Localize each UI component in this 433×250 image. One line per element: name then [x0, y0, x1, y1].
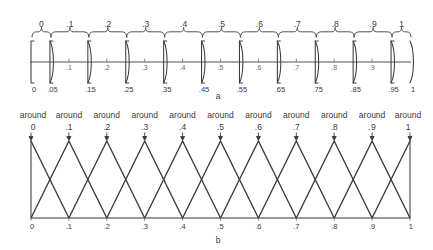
panel-a-caption: a [216, 91, 221, 101]
boundary-label-2: .15 [85, 85, 95, 94]
panel-a-axis-label-4: .5 [218, 64, 224, 71]
panel-b: around0around.1around.2around.3around.4a… [20, 110, 422, 231]
set-label-2: .2 [104, 19, 111, 29]
set-brace-3 [127, 27, 165, 37]
boundary-label-8: .75 [313, 85, 323, 94]
boundary-label-10: .95 [388, 85, 398, 94]
boundary-label-9: .85 [350, 85, 360, 94]
membership-triangle-4 [145, 141, 221, 218]
boundary-label-4: .35 [161, 85, 171, 94]
set-brace-8 [316, 27, 354, 37]
around-label-3: around [131, 110, 158, 120]
peak-arrow-head-2 [105, 137, 109, 141]
set-label-10: 1 [399, 19, 404, 29]
boundary-label-3: .25 [123, 85, 133, 94]
around-value-1: .1 [65, 122, 72, 132]
set-brace-9 [354, 27, 392, 37]
around-label-4: around [169, 110, 196, 120]
panel-a-axis-label-1: .2 [104, 64, 110, 71]
membership-triangle-9 [334, 141, 410, 218]
panel-b-axis-label-2: .2 [104, 222, 110, 231]
set-brace-10 [392, 27, 411, 37]
around-value-4: .4 [179, 122, 186, 132]
set-label-9: .9 [370, 19, 377, 29]
set-brace-6 [240, 27, 278, 37]
membership-triangle-6 [221, 141, 297, 218]
panel-b-axis-label-7: .7 [293, 222, 299, 231]
around-label-10: around [395, 110, 422, 120]
panel-a: 0.1.2.3.4.5.6.7.8.910.05.15.25.35.45.55.… [30, 19, 415, 94]
around-label-1: around [56, 110, 83, 120]
around-label-6: around [245, 110, 272, 120]
around-label-8: around [321, 110, 348, 120]
panel-b-axis-label-1: .1 [66, 222, 72, 231]
peak-arrow-head-9 [370, 137, 374, 141]
panel-b-axis-label-4: .4 [179, 222, 185, 231]
set-label-1: .1 [66, 19, 73, 29]
peak-arrow-head-1 [67, 137, 71, 141]
figure-svg: 0.1.2.3.4.5.6.7.8.910.05.15.25.35.45.55.… [0, 0, 433, 250]
panel-a-axis-label-5: .6 [255, 64, 261, 71]
peak-arrow-head-10 [408, 137, 412, 141]
peak-arrow-head-0 [29, 137, 33, 141]
boundary-label-1: .05 [47, 85, 57, 94]
around-value-6: .6 [255, 122, 262, 132]
membership-triangle-7 [258, 141, 334, 218]
around-value-8: .8 [331, 122, 338, 132]
boundary-label-5: .45 [199, 85, 209, 94]
around-value-0: 0 [31, 122, 36, 132]
boundary-label-11: 1 [411, 85, 415, 94]
membership-triangle-5 [183, 141, 259, 218]
panel-b-axis-label-3: .3 [142, 222, 148, 231]
around-label-7: around [283, 110, 310, 120]
around-label-5: around [207, 110, 234, 120]
set-brace-1 [51, 27, 89, 37]
set-brace-4 [165, 27, 203, 37]
panel-b-axis-label-6: .6 [255, 222, 261, 231]
around-value-2: .2 [103, 122, 110, 132]
peak-arrow-head-7 [294, 137, 298, 141]
peak-arrow-head-8 [332, 137, 336, 141]
panel-a-axis-label-0: .1 [66, 64, 72, 71]
boundary-label-7: .65 [275, 85, 285, 94]
set-label-5: .5 [218, 19, 225, 29]
membership-triangle-3 [107, 141, 183, 218]
around-value-7: .7 [293, 122, 300, 132]
panel-b-axis-label-8: .8 [331, 222, 337, 231]
set-label-6: .6 [256, 19, 263, 29]
set-brace-5 [203, 27, 241, 37]
panel-a-axis-label-2: .3 [142, 64, 148, 71]
set-label-7: .7 [294, 19, 301, 29]
panel-b-axis-label-10: 1 [409, 222, 413, 231]
set-brace-2 [89, 27, 127, 37]
panel-b-axis-label-9: .9 [369, 222, 375, 231]
peak-arrow-head-4 [181, 137, 185, 141]
panel-a-axis-label-7: .8 [331, 64, 337, 71]
peak-arrow-head-5 [219, 137, 223, 141]
around-value-3: .3 [141, 122, 148, 132]
around-label-0: around [20, 110, 47, 120]
set-brace-7 [278, 27, 316, 37]
set-brace-0 [32, 27, 51, 37]
set-label-0: 0 [39, 19, 44, 29]
boundary-label-0: 0 [32, 85, 36, 94]
around-value-9: .9 [369, 122, 376, 132]
panel-a-axis-label-3: .4 [180, 64, 186, 71]
panel-a-axis-label-8: .9 [369, 64, 375, 71]
panel-b-caption: b [216, 235, 221, 245]
around-label-9: around [359, 110, 386, 120]
membership-triangle-2 [69, 141, 145, 218]
panel-b-axis-label-0: 0 [30, 222, 34, 231]
boundary-label-6: .55 [237, 85, 247, 94]
membership-triangle-8 [296, 141, 372, 218]
around-value-10: 1 [406, 122, 411, 132]
membership-triangle-1 [31, 141, 107, 218]
panel-b-axis-label-5: .5 [217, 222, 223, 231]
around-value-5: .5 [217, 122, 224, 132]
set-label-8: .8 [332, 19, 339, 29]
set-label-4: .4 [180, 19, 187, 29]
peak-arrow-head-3 [143, 137, 147, 141]
around-label-2: around [94, 110, 121, 120]
set-label-3: .3 [142, 19, 149, 29]
panel-a-axis-label-6: .7 [293, 64, 299, 71]
